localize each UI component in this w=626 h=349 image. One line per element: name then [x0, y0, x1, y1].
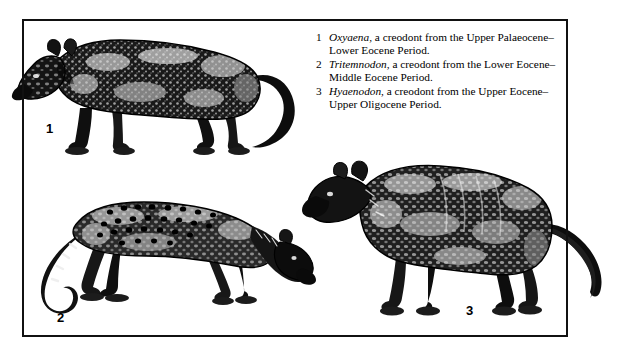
caption-text-1: Oxyaena, a creodont from the Upper Palae… — [329, 31, 561, 58]
caption-block: 1 Oxyaena, a creodont from the Upper Pal… — [316, 31, 561, 111]
oxyaena-hindleg-near — [194, 110, 214, 150]
tritemnodon-hindleg-far — [81, 236, 110, 295]
tritemnodon-neck — [250, 226, 304, 282]
tritemnodon-foreleg-near — [234, 250, 248, 299]
hyaenodon-foreleg-near — [419, 262, 436, 310]
hyaenodon-head — [308, 176, 371, 222]
oxyaena-body — [56, 40, 260, 119]
caption-item-3: 3 Hyaenodon, a creodont from the Upper E… — [316, 85, 561, 112]
tritemnodon-foreleg-far — [206, 252, 231, 300]
oxyaena-foreleg-near — [68, 108, 92, 150]
illustration-plate: 1 2 3 1 Oxyaena, a creodont from the Upp… — [0, 0, 626, 349]
tritemnodon-body — [73, 202, 272, 268]
caption-item-1: 1 Oxyaena, a creodont from the Upper Pal… — [316, 31, 561, 58]
caption-number-1: 1 — [316, 31, 329, 44]
illustration-oxyaena — [8, 18, 303, 160]
hyaenodon-tail — [542, 224, 602, 297]
tritemnodon-tail — [41, 236, 80, 314]
oxyaena-tail — [252, 75, 295, 148]
oxyaena-hindleg-far — [222, 110, 245, 151]
figure-label-2: 2 — [57, 310, 64, 325]
caption-genus-1: Oxyaena, — [329, 31, 372, 43]
caption-genus-2: Tritemnodon, — [329, 58, 390, 70]
tritemnodon-head — [274, 242, 313, 280]
oxyaena-foreleg-far — [112, 110, 130, 151]
caption-genus-3: Hyaenodon, — [329, 85, 384, 97]
tritemnodon-spots — [97, 204, 216, 245]
figure-label-1: 1 — [46, 121, 53, 136]
hyaenodon-hindleg-far — [518, 258, 538, 309]
caption-number-2: 2 — [316, 58, 329, 71]
illustration-tritemnodon — [18, 180, 318, 322]
caption-item-2: 2 Tritemnodon, a creodont from the Lower… — [316, 58, 561, 85]
illustration-hyaenodon — [300, 140, 605, 322]
hyaenodon-body — [359, 166, 552, 275]
tritemnodon-hindleg-near — [99, 240, 122, 297]
caption-number-3: 3 — [316, 85, 329, 98]
figure-label-3: 3 — [466, 303, 473, 318]
caption-text-2: Tritemnodon, a creodont from the Lower E… — [329, 58, 561, 85]
hyaenodon-foreleg-far — [381, 258, 406, 309]
hyaenodon-hindleg-near — [494, 262, 514, 310]
oxyaena-head — [17, 56, 65, 99]
caption-text-3: Hyaenodon, a creodont from the Upper Eoc… — [329, 85, 561, 112]
